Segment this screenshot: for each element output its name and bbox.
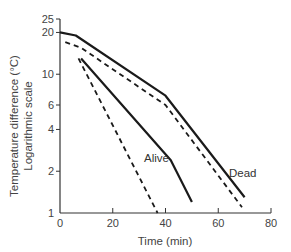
x-tick-label: 20 xyxy=(107,217,119,229)
label-alive: Alive xyxy=(144,152,169,164)
x-tick-label: 40 xyxy=(159,217,171,229)
chart: 1246102025020406080 Alive Dead Time (min… xyxy=(0,0,291,252)
x-axis-title: Time (min) xyxy=(138,235,193,247)
label-dead: Dead xyxy=(229,167,257,179)
axes: 1246102025020406080 xyxy=(42,13,277,229)
series-group xyxy=(60,32,245,213)
y-tick-label: 1 xyxy=(48,207,54,219)
y-tick-label: 6 xyxy=(48,99,54,111)
y-axis-subtitle: Logarithmic scale xyxy=(22,81,34,170)
x-tick-label: 60 xyxy=(212,217,224,229)
x-tick-label: 0 xyxy=(57,217,63,229)
y-tick-label: 10 xyxy=(42,68,54,80)
y-tick-label: 20 xyxy=(42,26,54,38)
series-line xyxy=(65,42,242,207)
series-line xyxy=(60,32,245,197)
y-axis-title: Temperature difference (°C) xyxy=(8,55,20,197)
x-tick-label: 80 xyxy=(265,217,277,229)
y-tick-label: 25 xyxy=(42,13,54,25)
series-line xyxy=(81,58,192,202)
y-tick-label: 4 xyxy=(48,123,54,135)
y-tick-label: 2 xyxy=(48,165,54,177)
